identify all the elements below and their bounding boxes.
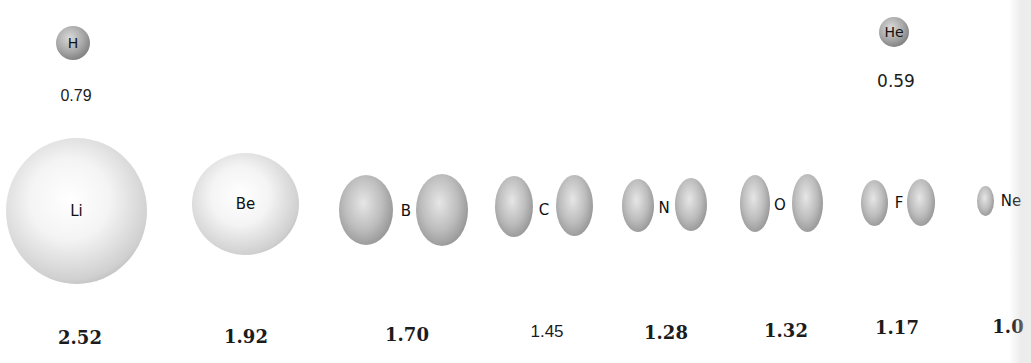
element-symbol-f: F [895,194,904,212]
element-symbol-h: H [68,35,79,51]
neon-lobe-left [977,186,994,216]
boron-lobe-right [416,174,468,246]
radius-value-b: 1.70 [385,324,429,345]
radius-value-c: 1.45 [530,322,563,342]
fluorine-lobe-right [907,179,935,226]
radius-value-h: 0.79 [60,87,91,105]
fluorine-lobe-left [861,180,888,226]
oxygen-lobe-left [740,175,770,232]
lithium-sphere: Li [6,138,147,284]
element-symbol-he: He [884,24,903,40]
radius-value-li: 2.52 [58,327,102,348]
boron-lobe-left [339,175,393,245]
radius-value-be: 1.92 [224,326,268,347]
carbon-lobe-left [495,176,533,237]
radius-value-f: 1.17 [875,317,919,338]
element-symbol-be: Be [236,195,256,213]
page-edge-shadow [1009,0,1031,363]
helium-sphere: He [879,17,909,47]
radius-value-he: 0.59 [877,71,915,91]
element-symbol-li: Li [70,202,83,220]
radius-value-o: 1.32 [764,320,808,341]
beryllium-sphere: Be [192,153,299,255]
hydrogen-sphere: H [56,26,90,60]
radius-value-n: 1.28 [644,322,688,343]
element-symbol-c: C [539,201,549,219]
nitrogen-lobe-left [622,179,654,232]
element-symbol-n: N [658,199,669,217]
oxygen-lobe-right [792,174,823,232]
carbon-lobe-right [556,175,593,236]
nitrogen-lobe-right [675,178,707,231]
element-symbol-o: O [774,196,786,214]
element-symbol-b: B [401,202,411,220]
